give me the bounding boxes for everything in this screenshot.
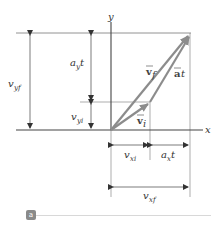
vf-vector-arrow [111, 36, 188, 130]
svg-text:t: t [181, 68, 186, 79]
svg-text:xi: xi [130, 155, 136, 163]
vi-label: v i [136, 115, 146, 129]
vyf-label: v yf [8, 78, 22, 92]
vf-label: v f [145, 66, 158, 80]
svg-text:a: a [174, 68, 181, 79]
vyi-label: v yi [71, 111, 83, 125]
figure-part-badge: a [26, 210, 36, 220]
axt-label: a x t [161, 149, 176, 163]
svg-text:t: t [80, 57, 85, 68]
ayt-label: a y t [70, 57, 85, 71]
svg-text:yf: yf [13, 84, 22, 92]
vxi-label: v xi [124, 149, 136, 163]
svg-text:t: t [171, 149, 176, 160]
vxf-label: v xf [143, 190, 157, 204]
y-axis-label: y [107, 11, 114, 22]
svg-text:yi: yi [76, 117, 83, 125]
at-label: a t [174, 68, 186, 79]
svg-text:xf: xf [149, 196, 157, 204]
x-axis-label: x [205, 124, 211, 135]
figure-separator-line [36, 215, 211, 216]
kinematics-vector-diagram: x y v f v i a t v yf a y t v yi v xi [0, 0, 221, 230]
svg-text:i: i [143, 118, 146, 129]
